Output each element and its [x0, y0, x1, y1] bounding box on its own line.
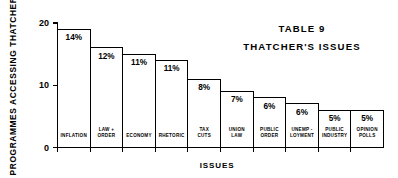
bar-category-label: RHETORIC — [159, 133, 185, 138]
bar-category-label: LOYMENT — [290, 133, 314, 138]
bar-value-label: 5% — [329, 114, 342, 123]
bar-category-label: ORDER — [97, 133, 115, 138]
bar-category-label: LAW + — [99, 127, 114, 132]
y-tick-label: 10 — [39, 80, 49, 90]
bar-category-label: INFLATION — [61, 133, 88, 138]
y-tick-label: 0 — [44, 143, 49, 153]
y-tick-label: 20 — [39, 18, 49, 28]
y-tick-group: 01020 — [39, 18, 58, 153]
bar-category-label: ECONOMY — [126, 133, 152, 138]
bar-value-label: 7% — [231, 95, 244, 104]
bar-value-label: 6% — [296, 108, 309, 117]
bar-category-label: OPINION — [357, 127, 379, 132]
chart-figure: TABLE 9 THATCHER'S ISSUES 01020 PROGRAMM… — [0, 0, 398, 178]
x-tick-group — [58, 148, 351, 152]
bar-value-label: 8% — [198, 83, 211, 92]
bar-category-label: UNION — [229, 127, 245, 132]
table-title-label: THATCHER'S ISSUES — [243, 41, 360, 52]
bar-value-label: 11% — [131, 58, 148, 67]
x-axis: ISSUES — [58, 148, 385, 171]
bar-category-label: INDUSTRY — [322, 133, 347, 138]
bar-category-label: POLLS — [359, 133, 376, 138]
bar-category-label: ORDER — [260, 133, 278, 138]
y-axis-title: PROGRAMMES ACCESSING THATCHER — [8, 0, 18, 175]
bar-category-label: LAW — [231, 133, 242, 138]
bar-value-label: 11% — [164, 64, 181, 73]
bar-chart: TABLE 9 THATCHER'S ISSUES 01020 PROGRAMM… — [0, 0, 398, 178]
bar-value-label: 5% — [361, 114, 374, 123]
bar — [58, 29, 91, 147]
bar-value-label: 12% — [98, 52, 115, 61]
bar-category-label: PUBLIC — [325, 127, 344, 132]
bar-category-label: CUTS — [197, 133, 211, 138]
bar-category-label: TAX — [199, 127, 209, 132]
figure-title: TABLE 9 THATCHER'S ISSUES — [243, 23, 360, 52]
bar-category-label: PUBLIC — [260, 127, 279, 132]
table-number-label: TABLE 9 — [279, 23, 326, 34]
x-axis-title: ISSUES — [200, 161, 235, 170]
bar-value-label: 14% — [66, 33, 83, 42]
bar-value-label: 6% — [263, 102, 276, 111]
bar-category-label: UNEMP - — [291, 127, 312, 132]
y-axis: 01020 PROGRAMMES ACCESSING THATCHER — [8, 0, 58, 175]
